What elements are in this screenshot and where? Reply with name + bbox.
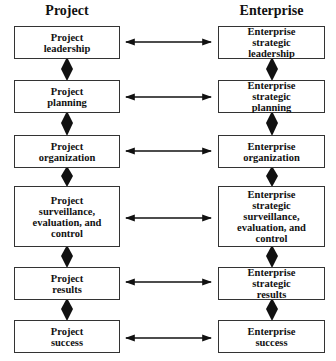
box-enterprise-planning: Enterprise strategic planning bbox=[218, 80, 325, 113]
box-project-surveillance: Project surveillance, evaluation, and co… bbox=[14, 186, 120, 247]
column-title-enterprise: Enterprise bbox=[218, 3, 325, 19]
double-arrow-icon bbox=[126, 42, 211, 338]
box-enterprise-organization: Enterprise organization bbox=[218, 135, 325, 168]
box-project-organization: Project organization bbox=[14, 135, 120, 168]
box-enterprise-leadership: Enterprise strategic leadership bbox=[218, 26, 325, 59]
box-enterprise-surveillance: Enterprise strategic surveillance, evalu… bbox=[218, 186, 325, 247]
box-enterprise-results: Enterprise strategic results bbox=[218, 267, 325, 300]
column-title-project: Project bbox=[14, 3, 120, 19]
box-project-planning: Project planning bbox=[14, 80, 120, 113]
box-enterprise-success: Enterprise success bbox=[218, 320, 325, 353]
box-project-results: Project results bbox=[14, 267, 120, 300]
box-project-success: Project success bbox=[14, 320, 120, 353]
box-project-leadership: Project leadership bbox=[14, 26, 120, 59]
